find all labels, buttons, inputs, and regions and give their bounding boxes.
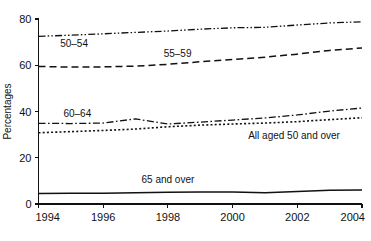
series-label: 55–59 — [164, 48, 192, 59]
x-tick-label: 1998 — [156, 211, 180, 223]
y-tick-label: 0 — [25, 198, 31, 210]
series-line-55–59 — [39, 48, 363, 67]
x-tick-label: 2000 — [220, 211, 244, 223]
series-label: All aged 50 and over — [248, 130, 340, 141]
y-tick-label: 40 — [19, 106, 31, 118]
series-label: 50–54 — [60, 38, 88, 49]
y-tick-label: 80 — [19, 13, 31, 25]
series-label: 60–64 — [63, 108, 91, 119]
y-axis-title: Percentages — [2, 83, 13, 139]
chart-figure: 020406080199419961998200020022004Percent… — [0, 0, 371, 241]
x-tick-label: 1996 — [91, 211, 115, 223]
line-chart: 020406080199419961998200020022004Percent… — [0, 0, 371, 241]
y-tick-label: 20 — [19, 152, 31, 164]
y-tick-label: 60 — [19, 59, 31, 71]
series-label: 65 and over — [141, 174, 194, 185]
series-line-50–54 — [39, 22, 363, 37]
x-tick-label: 2002 — [285, 211, 309, 223]
series-line-65-and-over — [39, 190, 363, 194]
x-tick-label: 2004 — [341, 211, 365, 223]
x-tick-label: 1994 — [36, 211, 60, 223]
